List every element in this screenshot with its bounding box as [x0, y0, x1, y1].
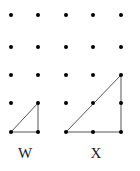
grid-dot-r2-c0	[9, 73, 13, 77]
grid-dot-r2-c1	[36, 73, 40, 77]
grid-dot-r4-c0	[9, 130, 13, 134]
grid-dot-r0-c3	[91, 13, 95, 17]
grid-dot-r0-c1	[36, 13, 40, 17]
grid-dot-r1-c1	[36, 45, 40, 49]
grid-dot-r1-c4	[119, 45, 123, 49]
grid-dot-r0-c0	[9, 13, 13, 17]
grid-dot-r3-c4	[119, 101, 123, 105]
triangle-w	[11, 103, 38, 132]
grid-dot-r4-c3	[91, 130, 95, 134]
grid-dot-r4-c2	[64, 130, 68, 134]
dot-grid-figure: W X	[0, 0, 140, 171]
grid-dot-r3-c2	[64, 101, 68, 105]
shape-label-x: X	[84, 146, 108, 161]
grid-dot-r2-c2	[64, 73, 68, 77]
grid-dot-r2-c4	[119, 73, 123, 77]
grid-dot-r4-c1	[36, 130, 40, 134]
shape-label-w: W	[13, 146, 37, 161]
grid-dot-r0-c4	[119, 13, 123, 17]
grid-dot-r3-c1	[36, 101, 40, 105]
grid-dot-r1-c3	[91, 45, 95, 49]
grid-dot-r1-c0	[9, 45, 13, 49]
grid-dot-r3-c3	[91, 101, 95, 105]
grid-dot-r0-c2	[64, 13, 68, 17]
grid-dot-r2-c3	[91, 73, 95, 77]
grid-dot-r3-c0	[9, 101, 13, 105]
grid-dot-r1-c2	[64, 45, 68, 49]
grid-dot-r4-c4	[119, 130, 123, 134]
